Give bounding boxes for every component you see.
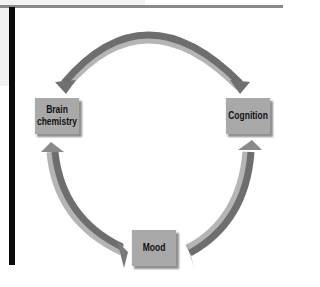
node-brain-chemistry: Brain chemistry: [35, 98, 79, 134]
node-brain-line1: Brain: [37, 104, 77, 116]
arrow-mood-brain-icon: [41, 142, 128, 268]
node-cognition-label: Cognition: [228, 110, 268, 122]
arrow-cognition-mood-icon: [186, 140, 262, 268]
node-brain-line2: chemistry: [37, 116, 77, 128]
node-mood-label: Mood: [143, 242, 166, 254]
arrow-brain-cognition-icon: [55, 35, 250, 94]
node-mood: Mood: [132, 230, 176, 266]
node-cognition: Cognition: [226, 98, 270, 134]
